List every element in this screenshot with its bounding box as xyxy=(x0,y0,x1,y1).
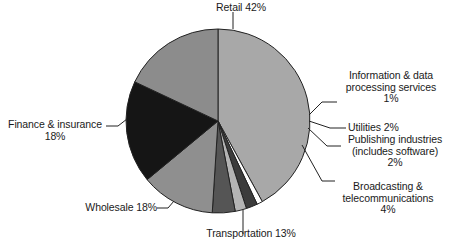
pie-slice-group xyxy=(126,29,310,213)
slice-label-utilities: Utilities 2% xyxy=(348,122,448,134)
slice-label-finance: Finance & insurance 18% xyxy=(4,119,106,142)
leader-line-publishing xyxy=(308,128,341,146)
slice-label-wholesale: Wholesale 18% xyxy=(57,202,157,214)
leader-line-utilities xyxy=(309,121,346,128)
slice-label-information: Information & data processing services 1… xyxy=(333,70,449,105)
slice-label-broadcasting: Broadcasting & telecommunications 4% xyxy=(326,181,450,216)
slice-label-publishing: Publishing industries (includes software… xyxy=(339,134,451,169)
leader-line-broadcasting xyxy=(302,145,335,181)
leader-line-wholesale xyxy=(157,201,174,208)
slice-label-transportation: Transportation 13% xyxy=(196,228,306,240)
slice-label-retail: Retail 42% xyxy=(196,2,286,14)
pie-chart-figure: Retail 42% Information & data processing… xyxy=(0,0,451,251)
leader-line-finance xyxy=(106,119,127,126)
